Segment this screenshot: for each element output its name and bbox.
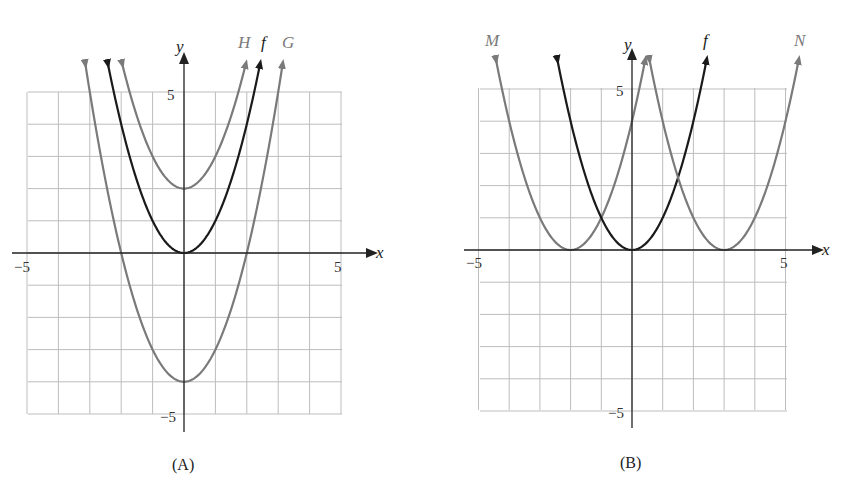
caption-a: (A) xyxy=(172,456,194,474)
graph-panel-b: y x −5 5 5 −5 M f N (B) xyxy=(464,31,830,472)
x-tick-max-b: 5 xyxy=(780,255,788,271)
y-axis-label-b: y xyxy=(622,35,632,54)
y-tick-min-b: −5 xyxy=(608,405,624,421)
curve-label-f-a: f xyxy=(261,33,268,52)
x-axis-label-a: x xyxy=(375,243,384,262)
curve-label-m: M xyxy=(484,31,500,50)
curve-label-n: N xyxy=(793,31,807,50)
curve-label-g: G xyxy=(282,33,294,52)
graph-panel-a: y x −5 5 5 −5 H f G (A) xyxy=(12,33,384,474)
y-tick-max-a: 5 xyxy=(167,87,175,103)
y-axis-label-a: y xyxy=(174,37,184,56)
curve-label-h: H xyxy=(237,33,252,52)
y-tick-max-b: 5 xyxy=(616,83,624,99)
x-tick-min-b: −5 xyxy=(466,255,482,271)
y-tick-min-a: −5 xyxy=(160,409,176,425)
caption-b: (B) xyxy=(620,454,641,472)
figure: y x −5 5 5 −5 H f G (A) y x −5 5 5 −5 M … xyxy=(0,0,847,483)
curve-label-f-b: f xyxy=(703,31,710,50)
axes-b xyxy=(464,54,818,428)
x-axis-label-b: x xyxy=(821,240,830,259)
axes-a xyxy=(12,58,372,432)
x-tick-min-a: −5 xyxy=(14,259,30,275)
x-tick-max-a: 5 xyxy=(334,259,342,275)
